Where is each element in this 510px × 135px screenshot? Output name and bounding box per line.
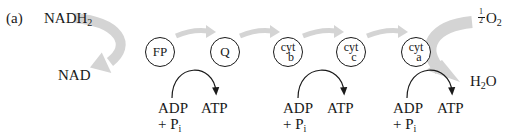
adp-label-3: ADP bbox=[393, 101, 423, 116]
electron-transport-chain-diagram: (a) NADH2 NAD 12O2 H2O FP Q cytb cytc cy… bbox=[0, 0, 510, 135]
electron-flow-arrow-fp-q bbox=[176, 25, 216, 38]
electron-flow-arrow-cytc-cyta bbox=[367, 25, 408, 38]
atp-label-2: ATP bbox=[327, 101, 354, 116]
pi-label-2: + Pi bbox=[283, 117, 306, 134]
adp-label-1: ADP bbox=[158, 101, 188, 116]
carrier-q: Q bbox=[210, 37, 240, 67]
adp-label-2: ADP bbox=[283, 101, 313, 116]
pi-label-1: + Pi bbox=[158, 117, 181, 134]
atp-label-3: ATP bbox=[437, 101, 464, 116]
nadh2-label: NADH2 bbox=[44, 11, 92, 28]
atp-synthesis-arrow-2 bbox=[298, 70, 344, 98]
carrier-cyt-b: cytb bbox=[273, 37, 303, 67]
nadh-text: NADH bbox=[44, 10, 87, 26]
one-half-fraction: 12 bbox=[478, 11, 486, 25]
atp-label-1: ATP bbox=[201, 101, 228, 116]
carrier-cyt-c: cytc bbox=[336, 37, 366, 67]
atp-synthesis-arrow-1 bbox=[172, 70, 216, 98]
electron-flow-arrow-q-cytb bbox=[240, 25, 280, 38]
half-o2-label: 12O2 bbox=[478, 11, 502, 28]
carrier-cyt-a: cyta bbox=[401, 37, 431, 67]
carrier-fp: FP bbox=[145, 37, 175, 67]
nadh-subscript: 2 bbox=[87, 17, 92, 28]
oxygen-reduction-arrow bbox=[426, 22, 472, 82]
pi-label-3: + Pi bbox=[393, 117, 416, 134]
panel-label: (a) bbox=[6, 11, 23, 26]
nad-label: NAD bbox=[58, 68, 91, 83]
electron-flow-arrow-cytb-cytc bbox=[303, 25, 344, 38]
h2o-label: H2O bbox=[470, 74, 497, 91]
